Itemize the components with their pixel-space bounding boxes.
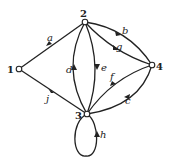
edge-f xyxy=(87,65,152,114)
node-3 xyxy=(84,111,90,117)
edge-label-e: e xyxy=(101,62,107,73)
node-label-2: 2 xyxy=(80,8,87,19)
node-2 xyxy=(82,19,88,25)
node-4 xyxy=(149,62,155,68)
node-1 xyxy=(16,66,22,72)
edge-label-a: a xyxy=(47,32,53,43)
node-label-3: 3 xyxy=(75,110,82,121)
node-label-1: 1 xyxy=(7,64,14,75)
edge-e xyxy=(85,22,95,114)
edge-c xyxy=(87,65,152,114)
edge-label-g: g xyxy=(116,41,122,52)
directed-graph-diagram: 1 2 3 4 a b c d e f g h j xyxy=(0,0,170,165)
edge-label-j: j xyxy=(44,93,49,104)
node-label-4: 4 xyxy=(156,61,163,72)
edge-label-b: b xyxy=(122,25,128,36)
edge-label-h: h xyxy=(100,129,106,140)
edge-label-d: d xyxy=(66,64,72,75)
edge-label-c: c xyxy=(125,95,131,106)
edge-label-f: f xyxy=(109,71,116,82)
